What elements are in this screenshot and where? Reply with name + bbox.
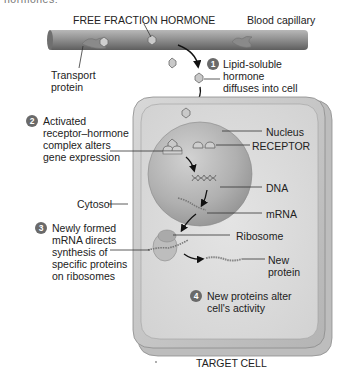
new-protein-label-line2: protein bbox=[268, 266, 300, 278]
mrna-label: mRNA bbox=[266, 208, 297, 220]
nucleus bbox=[148, 122, 252, 226]
step-2-text-line2: receptor–hormone bbox=[43, 127, 129, 139]
receptor-label: RECEPTOR bbox=[252, 140, 310, 152]
new-protein-label-line1: New bbox=[268, 254, 289, 266]
step-2-text-line4: gene expression bbox=[43, 151, 120, 163]
step-2-text-line3: complex alters bbox=[43, 139, 111, 151]
step-2-badge: 2 bbox=[26, 115, 38, 127]
nucleus-label: Nucleus bbox=[266, 126, 304, 138]
blood-capillary-label: Blood capillary bbox=[247, 14, 315, 26]
free-fraction-hormone-label: FREE FRACTION HORMONE bbox=[73, 14, 215, 26]
step-3-text-line2: mRNA directs bbox=[52, 234, 116, 246]
step-1-badge: 1 bbox=[207, 58, 219, 70]
step-4-text-line1: New proteins alter bbox=[207, 290, 292, 302]
step-3-badge: 3 bbox=[35, 222, 47, 234]
step-4-badge: 4 bbox=[190, 290, 202, 302]
step-4-text-line2: cell's activity bbox=[207, 302, 265, 314]
dna-label: DNA bbox=[266, 182, 288, 194]
cytosol-label: Cytosol bbox=[77, 198, 112, 210]
diagram-graphics bbox=[0, 0, 342, 375]
target-cell-label: TARGET CELL bbox=[196, 357, 267, 369]
step-1-text-line2: hormone bbox=[223, 70, 264, 82]
step-1-text-line1: Lipid-soluble bbox=[223, 58, 282, 70]
step-3-text-line5: on ribosomes bbox=[52, 270, 115, 282]
ribosome-label: Ribosome bbox=[236, 230, 283, 242]
transport-protein-label-line2: protein bbox=[51, 81, 83, 93]
blood-capillary bbox=[47, 30, 308, 50]
step-2-text-line1: Activated bbox=[43, 115, 86, 127]
step-1-text-line3: diffuses into cell bbox=[223, 82, 298, 94]
transport-protein-label-line1: Transport bbox=[51, 69, 96, 81]
step-3-text-line3: synthesis of bbox=[52, 246, 107, 258]
step-3-text-line1: Newly formed bbox=[52, 222, 116, 234]
step-3-text-line4: specific proteins bbox=[52, 258, 127, 270]
